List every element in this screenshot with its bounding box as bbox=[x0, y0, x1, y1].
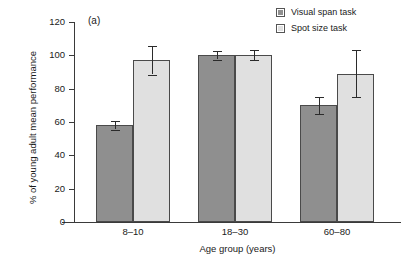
error-bar-cap-lower bbox=[111, 130, 120, 131]
bar-group bbox=[300, 22, 374, 222]
error-bar-cap-upper bbox=[352, 50, 361, 51]
error-bar bbox=[217, 51, 218, 59]
error-bar-cap-upper bbox=[111, 121, 120, 122]
bar-visual-span-task bbox=[198, 55, 235, 222]
x-axis-line bbox=[62, 222, 401, 223]
y-axis-tick: 0 bbox=[69, 222, 74, 223]
plot-area: 020406080100120 8–1018–3060–80 bbox=[74, 22, 401, 222]
error-bar-cap-upper bbox=[148, 46, 157, 47]
y-axis-label: % of young adult mean performance bbox=[27, 28, 38, 228]
y-axis-tick: 20 bbox=[69, 189, 74, 190]
y-axis-line bbox=[74, 22, 75, 222]
y-axis-tick: 40 bbox=[69, 155, 74, 156]
x-axis-label: Age group (years) bbox=[74, 243, 401, 254]
error-bar bbox=[115, 121, 116, 129]
figure-panel-a: Visual span task Spot size task (a) % of… bbox=[0, 0, 415, 267]
bar-visual-span-task bbox=[96, 125, 133, 222]
y-axis-tick-label: 60 bbox=[54, 116, 65, 127]
y-axis-tick: 100 bbox=[69, 55, 74, 56]
y-axis-tick-label: 100 bbox=[49, 49, 65, 60]
x-axis-tick-label: 60–80 bbox=[300, 226, 374, 237]
y-axis-tick-label: 80 bbox=[54, 83, 65, 94]
error-bar bbox=[152, 46, 153, 74]
error-bar-cap-lower bbox=[352, 97, 361, 98]
legend-label-visual-span-task: Visual span task bbox=[291, 7, 356, 17]
error-bar bbox=[254, 50, 255, 60]
error-bar bbox=[356, 50, 357, 97]
y-axis-tick-label: 0 bbox=[60, 216, 65, 227]
bar-visual-span-task bbox=[300, 105, 337, 222]
error-bar-cap-upper bbox=[213, 51, 222, 52]
error-bar-cap-lower bbox=[148, 75, 157, 76]
legend-swatch-dark-icon bbox=[276, 8, 285, 17]
error-bar bbox=[319, 97, 320, 114]
error-bar-cap-upper bbox=[315, 97, 324, 98]
y-axis-tick: 80 bbox=[69, 89, 74, 90]
error-bar-cap-lower bbox=[250, 60, 259, 61]
bar-spot-size-task bbox=[235, 55, 272, 222]
y-axis-tick-label: 120 bbox=[49, 16, 65, 27]
error-bar-cap-lower bbox=[213, 60, 222, 61]
y-axis-tick-label: 40 bbox=[54, 149, 65, 160]
y-axis-tick: 60 bbox=[69, 122, 74, 123]
bar-group bbox=[96, 22, 170, 222]
y-axis-tick: 120 bbox=[69, 22, 74, 23]
x-axis-tick-label: 18–30 bbox=[198, 226, 272, 237]
x-axis-tick-label: 8–10 bbox=[96, 226, 170, 237]
error-bar-cap-lower bbox=[315, 114, 324, 115]
legend-entry-visual-span-task: Visual span task bbox=[276, 6, 356, 18]
bar-group bbox=[198, 22, 272, 222]
bar-spot-size-task bbox=[133, 60, 170, 222]
y-axis-tick-label: 20 bbox=[54, 183, 65, 194]
error-bar-cap-upper bbox=[250, 50, 259, 51]
